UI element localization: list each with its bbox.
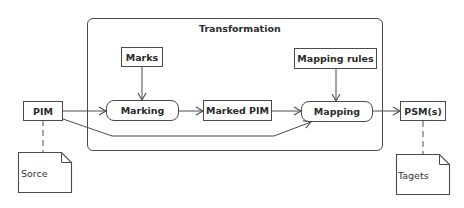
node-marks-label: Marks — [126, 52, 159, 63]
node-pim[interactable]: PIM — [23, 101, 63, 121]
node-marked-pim[interactable]: Marked PIM — [203, 100, 272, 121]
node-marked-pim-label: Marked PIM — [206, 105, 269, 116]
node-mapping-rules[interactable]: Mapping rules — [294, 48, 377, 69]
node-marking[interactable]: Marking — [106, 100, 179, 121]
node-mapping-rules-label: Mapping rules — [297, 53, 373, 64]
transformation-container — [87, 18, 383, 151]
node-pim-label: PIM — [33, 106, 53, 117]
node-psm-label: PSM(s) — [404, 106, 442, 117]
note-targets-label: Tagets — [398, 170, 429, 181]
node-mapping-label: Mapping — [314, 106, 360, 117]
note-source-label: Sorce — [21, 168, 48, 179]
node-marking-label: Marking — [121, 105, 165, 116]
node-mapping[interactable]: Mapping — [301, 101, 373, 122]
node-marks[interactable]: Marks — [121, 47, 163, 67]
transformation-title: Transformation — [199, 23, 281, 34]
node-psm[interactable]: PSM(s) — [400, 101, 446, 121]
